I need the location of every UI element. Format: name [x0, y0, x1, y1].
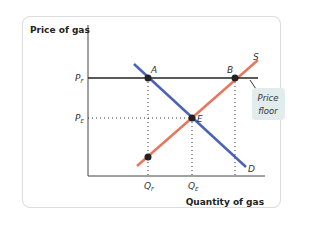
tick-q-f: QF: [144, 181, 155, 192]
tick-p-e: PE: [75, 113, 84, 124]
callout-pointer: [250, 80, 256, 89]
tick-q-e: QE: [188, 181, 199, 192]
tick-p-f: PF: [75, 73, 84, 84]
point-a: [145, 75, 152, 82]
callout-line-2: floor: [258, 106, 278, 116]
x-axis-title: Quantity of gas: [186, 197, 264, 207]
label-e: E: [197, 114, 203, 124]
label-b: B: [227, 65, 233, 75]
point-b: [232, 75, 239, 82]
point-supply-at-qf: [145, 154, 152, 161]
point-e: [189, 115, 196, 122]
supply-curve: [137, 60, 258, 166]
label-s: S: [253, 52, 259, 62]
price-floor-chart: Price of gas Quantity of gas A B E S D P…: [0, 0, 315, 227]
callout-line-1: Price: [258, 93, 279, 103]
label-d: D: [248, 164, 255, 174]
label-a: A: [150, 65, 157, 75]
y-axis-title: Price of gas: [30, 25, 90, 35]
